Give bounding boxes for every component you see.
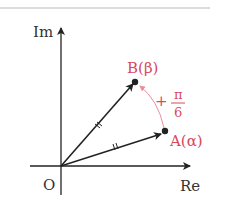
real-axis-label: Re [180, 177, 200, 195]
rotation-numerator: π [174, 87, 183, 102]
imag-axis-label: Im [33, 23, 53, 41]
point-A-label: A(α) [169, 132, 203, 150]
complex-plane-diagram: Im Re O B(β) A(α) + π 6 [0, 0, 226, 208]
origin-label: O [43, 176, 55, 194]
rotation-sign: + [155, 92, 168, 110]
point-B-label: B(β) [127, 59, 158, 77]
point-B [132, 79, 138, 85]
rotation-denominator: 6 [174, 105, 182, 120]
equal-length-marks [95, 122, 118, 150]
point-A [162, 128, 168, 134]
